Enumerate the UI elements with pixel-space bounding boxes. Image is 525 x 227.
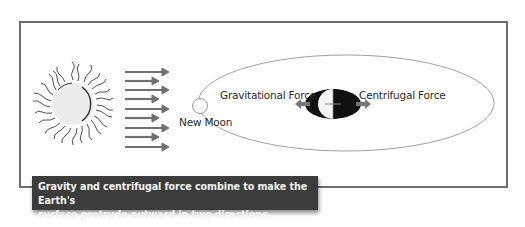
- caption-box: Gravity and centrifugal force combine to…: [32, 176, 318, 210]
- gravitational-force-label: Gravitational Force: [220, 89, 316, 101]
- new-moon-label: New Moon: [179, 116, 232, 128]
- sun-icon: [33, 62, 113, 145]
- caption-line-2: surface protrude outward in two directio…: [38, 208, 318, 222]
- centrifugal-force-label: Centrifugal Force: [359, 89, 446, 101]
- new-moon-icon: [193, 99, 208, 114]
- caption-line-1: Gravity and centrifugal force combine to…: [38, 180, 318, 208]
- sunlight-arrows: [125, 68, 169, 151]
